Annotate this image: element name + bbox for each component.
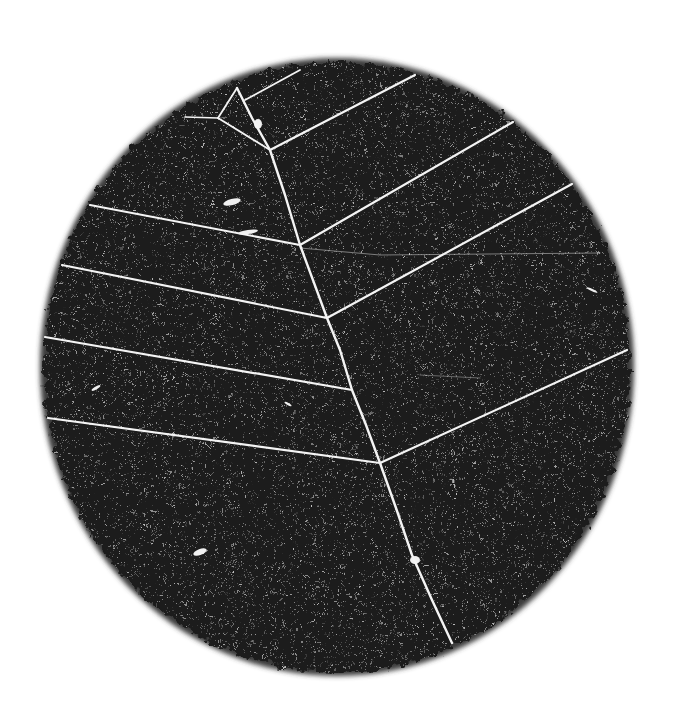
dark-disc (44, 62, 630, 672)
specimen-figure (0, 0, 686, 718)
specimen-image (0, 0, 686, 718)
disc-group (40, 58, 634, 676)
vein-upper-left-v-b (185, 117, 218, 118)
